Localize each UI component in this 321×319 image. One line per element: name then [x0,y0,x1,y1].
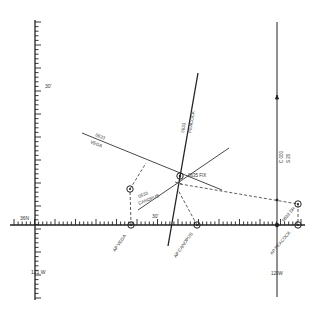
svg-text:0633: 0633 [95,132,107,141]
speed-label: S 20 [286,153,291,163]
fix-label: 0635 FIX [188,173,206,178]
lop-peacock [168,73,198,246]
svg-text:PEACOCK: PEACOCK [187,111,196,134]
peacock-lop-label: 0633 PEACOCK [180,111,196,134]
ap-vega-label: AP VEGA [112,234,127,253]
lop-vega [82,133,222,190]
course-arrow-icon [276,95,279,99]
dr-label: 0633 DR [281,205,297,222]
label-30-minutes-lon: 30' [152,213,159,219]
label-36n: 36N [20,215,30,221]
canopus-lop-label: 0633 CANOPUS [138,190,161,206]
label-120w: 120W [271,271,284,276]
horizontal-longitude-scale [10,219,305,225]
left-latitude-scale [35,20,41,300]
course-label: C 000 [279,150,284,163]
svg-text:0633: 0633 [180,122,187,133]
plotting-sheet-diagram: 30' 121 W 36N 30' C 000 S 20 120W 0633 V… [0,0,321,319]
ap-canopus-label: AP CANOPUS [173,232,194,259]
vega-lop-label: 0633 VEGA [90,132,107,148]
ap-peacock-label: AP PEACOCK [269,230,292,256]
label-121w: 121 W [31,269,46,275]
label-30-minutes-lat: 30' [45,83,52,89]
